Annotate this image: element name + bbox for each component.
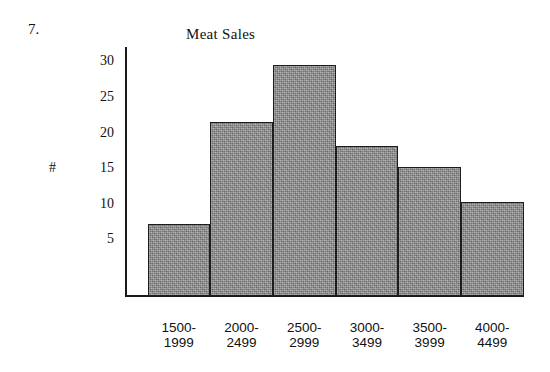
bar-4000-4499 (461, 202, 524, 296)
bar-2000-2499 (210, 122, 273, 296)
y-axis-line (125, 47, 127, 297)
bar-1500-1999 (148, 224, 211, 296)
x-tick-3000-3499: 3000-3499 (336, 320, 399, 350)
x-tick-3500-3999: 3500-3999 (398, 320, 461, 350)
chart-page: 7. Meat Sales # 51015202530 1500-1999200… (0, 0, 550, 372)
x-tick-1500-1999: 1500-1999 (148, 320, 211, 350)
y-tick-10: 10 (68, 196, 114, 212)
y-tick-20: 20 (68, 125, 114, 141)
bar-3000-3499 (336, 146, 399, 296)
y-tick-30: 30 (68, 53, 114, 69)
plot-area: 51015202530 1500-19992000-24992500-29993… (0, 0, 550, 372)
y-tick-15: 15 (68, 160, 114, 176)
y-tick-5: 5 (68, 231, 114, 247)
bar-2500-2999 (273, 65, 336, 296)
x-tick-4000-4499: 4000-4499 (461, 320, 524, 350)
y-tick-25: 25 (68, 89, 114, 105)
x-tick-2500-2999: 2500-2999 (273, 320, 336, 350)
x-tick-2000-2499: 2000-2499 (210, 320, 273, 350)
bar-3500-3999 (398, 167, 461, 296)
